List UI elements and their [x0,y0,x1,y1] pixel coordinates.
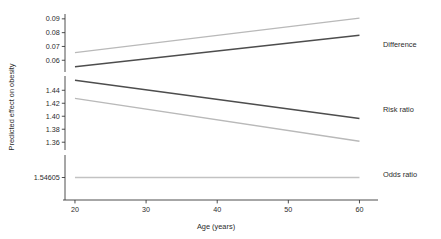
series-lines [75,18,360,177]
y-tick-label: 1.44 [46,86,60,95]
y-tick-label: 1.42 [46,99,60,108]
x-tick-label: 50 [284,205,292,214]
series-line-risk-ratio-lower-bound [75,98,360,141]
series-label-difference: Difference [383,40,417,49]
y-tick-label: 1.54605 [34,173,60,182]
series-labels: DifferenceRisk ratioOdds ratio [383,40,417,179]
y-tick-label: 0.06 [46,56,60,65]
series-line-risk-ratio [75,80,360,118]
line-chart-canvas: 0.090.080.070.061.441.421.401.381.361.54… [0,0,441,239]
y-axis-title: Predicted effect on obesity [7,63,16,150]
series-label-risk-ratio: Risk ratio [383,105,414,114]
series-line-difference [75,35,360,67]
x-tick-label: 20 [71,205,79,214]
series-line-difference-upper-bound [75,18,360,53]
y-tick-label: 1.36 [46,138,60,147]
x-tick-label: 40 [213,205,221,214]
y-tick-label: 1.38 [46,125,60,134]
chart-figure: 0.090.080.070.061.441.421.401.381.361.54… [0,0,441,239]
y-tick-label: 0.08 [46,28,60,37]
series-label-odds-ratio: Odds ratio [383,170,417,179]
y-tick-label: 1.40 [46,112,60,121]
y-axis: 0.090.080.070.061.441.421.401.381.361.54… [34,14,65,200]
y-tick-label: 0.07 [46,42,60,51]
x-axis: 2030405060 [63,200,378,214]
x-tick-label: 30 [142,205,150,214]
x-tick-label: 60 [355,205,363,214]
x-axis-title: Age (years) [197,222,235,231]
y-tick-label: 0.09 [46,14,60,23]
